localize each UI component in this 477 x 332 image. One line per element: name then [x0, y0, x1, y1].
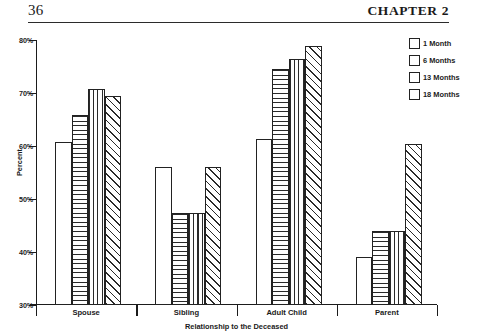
header-rule	[28, 22, 449, 23]
bar	[172, 213, 189, 305]
x-group-label: Adult Child	[266, 308, 307, 317]
bar	[105, 96, 122, 305]
y-tick-label: 40%	[19, 248, 26, 257]
legend-item: 13 Months	[409, 71, 477, 88]
x-axis-end-tick	[437, 305, 438, 316]
x-group-tick	[136, 305, 137, 316]
legend-label: 1 Month	[423, 39, 451, 48]
x-group-tick	[237, 305, 238, 316]
bar	[372, 231, 389, 305]
legend-label: 6 Months	[423, 56, 455, 65]
running-head: 36 CHAPTER 2	[28, 2, 449, 26]
x-axis-end-tick	[36, 305, 37, 316]
x-group-label: Sibling	[174, 308, 199, 317]
bar-series-container	[36, 40, 437, 305]
chart-legend: 1 Month6 Months13 Months18 Months	[409, 37, 477, 105]
page-number: 36	[28, 2, 43, 19]
x-group-label: Parent	[375, 308, 399, 317]
bar	[289, 59, 306, 305]
y-tick-label: 50%	[19, 195, 26, 204]
bar	[389, 231, 406, 305]
bar	[205, 167, 222, 305]
plot-area: 30%40%50%60%70%80% Percent SpouseSibling…	[36, 40, 437, 305]
legend-item: 18 Months	[409, 88, 477, 105]
legend-swatch-icon	[409, 55, 420, 66]
bar	[356, 257, 373, 305]
legend-swatch-icon	[409, 38, 420, 49]
y-tick-label: 80%	[19, 36, 26, 45]
legend-swatch-icon	[409, 72, 420, 83]
x-axis-title: Relationship to the Deceased	[36, 322, 437, 331]
bar	[305, 46, 322, 305]
y-tick-label: 30%	[19, 301, 26, 310]
bar	[272, 69, 289, 305]
y-axis-title: Percent	[15, 149, 24, 176]
bar	[155, 167, 172, 305]
bar	[55, 142, 72, 305]
x-group-label: Spouse	[72, 308, 99, 317]
legend-label: 18 Months	[423, 90, 460, 99]
legend-swatch-icon	[409, 89, 420, 100]
bar	[72, 115, 89, 305]
x-group-tick	[337, 305, 338, 316]
bar	[405, 144, 422, 305]
bar	[88, 89, 105, 305]
chapter-title: CHAPTER 2	[367, 3, 449, 19]
legend-item: 1 Month	[409, 37, 477, 54]
page-canvas: 36 CHAPTER 2 30%40%50%60%70%80% Percent …	[0, 0, 477, 332]
bar	[256, 139, 273, 305]
bar	[188, 213, 205, 305]
legend-label: 13 Months	[423, 73, 460, 82]
bar-chart: 30%40%50%60%70%80% Percent SpouseSibling…	[0, 26, 477, 332]
legend-item: 6 Months	[409, 54, 477, 71]
y-tick-label: 70%	[19, 89, 26, 98]
